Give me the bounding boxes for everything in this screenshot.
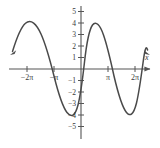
graph-canvas: x −2π −π π 2π 5 4 3 2 1 −1 −2 −3 −4 −5 <box>0 0 160 148</box>
y-tick-label-neg5: −5 <box>68 122 76 131</box>
y-tick-label-3: 3 <box>72 30 76 39</box>
x-tick-label-neg2pi: −2π <box>21 73 34 82</box>
x-axis-label: x <box>144 53 149 62</box>
x-tick-label-negpi: −π <box>50 73 59 82</box>
y-tick-label-neg4: −4 <box>68 111 76 120</box>
y-tick-label-neg1: −1 <box>68 76 76 85</box>
cosine-graph-figure: x −2π −π π 2π 5 4 3 2 1 −1 −2 −3 −4 −5 <box>0 0 160 148</box>
y-tick-label-1: 1 <box>72 53 76 62</box>
y-tick-label-neg2: −2 <box>68 88 76 97</box>
y-tick-label-2: 2 <box>72 42 76 51</box>
y-tick-label-5: 5 <box>72 7 76 16</box>
x-tick-label-2pi: 2π <box>131 73 139 82</box>
x-tick-label-pi: π <box>106 73 110 82</box>
y-tick-label-4: 4 <box>72 19 76 28</box>
y-tick-label-neg3: −3 <box>68 99 76 108</box>
